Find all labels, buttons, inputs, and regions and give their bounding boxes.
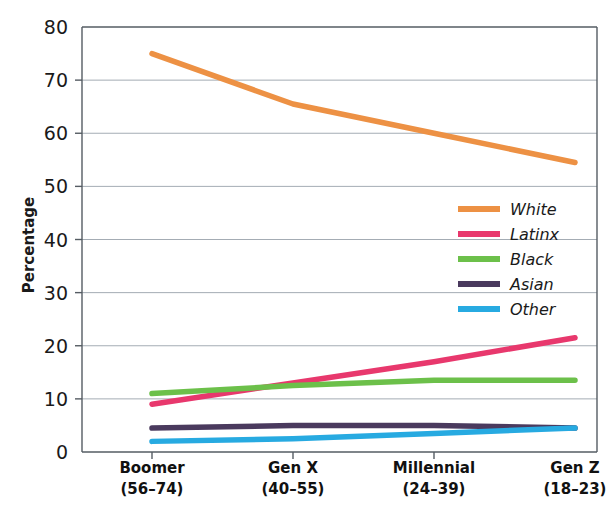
y-tick-label: 40 bbox=[44, 229, 68, 251]
legend-label-other: Other bbox=[510, 300, 557, 319]
y-tick-label: 60 bbox=[44, 122, 68, 144]
y-tick-label: 70 bbox=[44, 69, 68, 91]
y-axis-tick-labels: 01020304050607080 bbox=[44, 16, 68, 463]
y-tick-label: 80 bbox=[44, 16, 68, 38]
x-tick-label-range: (40–55) bbox=[262, 480, 325, 498]
x-tick-label-name: Boomer bbox=[119, 459, 185, 477]
x-tick-label-name: Gen X bbox=[268, 459, 318, 477]
y-tick-label: 30 bbox=[44, 282, 68, 304]
y-axis-title: Percentage bbox=[20, 197, 38, 294]
legend-label-white: White bbox=[510, 200, 557, 219]
x-tick-label-range: (18–23) bbox=[544, 480, 607, 498]
legend-label-black: Black bbox=[510, 250, 554, 269]
y-tick-label: 50 bbox=[44, 175, 68, 197]
line-chart: 01020304050607080 Boomer(56–74)Gen X(40–… bbox=[0, 0, 611, 516]
legend-label-latinx: Latinx bbox=[510, 225, 560, 244]
y-tick-label: 20 bbox=[44, 335, 68, 357]
chart-container: 01020304050607080 Boomer(56–74)Gen X(40–… bbox=[0, 0, 611, 516]
x-tick-label-name: Gen Z bbox=[550, 459, 599, 477]
legend-label-asian: Asian bbox=[509, 275, 554, 294]
y-tick-label: 0 bbox=[56, 441, 68, 463]
y-tick-label: 10 bbox=[44, 388, 68, 410]
series-line-asian bbox=[152, 425, 575, 428]
x-tick-label-range: (56–74) bbox=[121, 480, 184, 498]
x-tick-label-name: Millennial bbox=[393, 459, 475, 477]
x-tick-label-range: (24–39) bbox=[403, 480, 466, 498]
